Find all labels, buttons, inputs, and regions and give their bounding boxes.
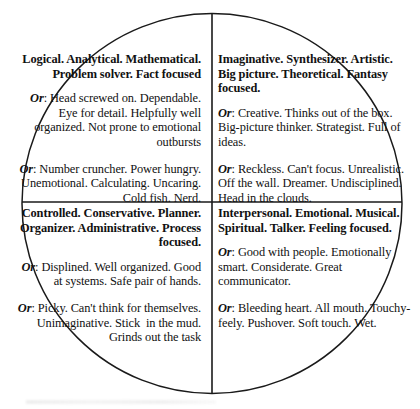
- quadrant-bottom-left-or-block-1: Or: Displined. Well organized. Good at s…: [14, 260, 201, 289]
- quadrant-bottom-left-or-block-2: Or: Picky. Can't think for themselves. U…: [14, 301, 201, 345]
- or-text: Head screwed on. Dependable. Eye for det…: [34, 91, 204, 149]
- or-label: Or: [30, 91, 44, 105]
- quadrant-bottom-right-or-block-1: Or: Good with people. Emotionally smart.…: [218, 245, 412, 289]
- quadrant-bottom-right: Interpersonal. Emotional. Musical. Spiri…: [216, 206, 412, 330]
- or-label: Or: [218, 245, 232, 259]
- or-label: Or: [218, 106, 232, 120]
- quadrant-bottom-right-heading: Interpersonal. Emotional. Musical. Spiri…: [218, 206, 412, 235]
- or-text: Good with people. Emotionally smart. Con…: [218, 245, 394, 288]
- quadrant-top-left-or-block-1: Or: Head screwed on. Dependable. Eye for…: [14, 91, 201, 149]
- quadrant-diagram: Logical. Analytical. Mathematical. Probl…: [0, 0, 420, 409]
- scan-artifact: [26, 400, 216, 404]
- or-text: Picky. Can't think for themselves. Unima…: [37, 301, 204, 344]
- quadrant-top-right-or-block-2: Or: Reckless. Can't focus. Unrealistic. …: [218, 162, 412, 206]
- or-label: Or: [18, 301, 32, 315]
- quadrant-bottom-right-or-block-2: Or: Bleeding heart. All mouth. Touchy-fe…: [218, 301, 412, 330]
- or-text: Reckless. Can't focus. Unrealistic. Off …: [218, 162, 407, 205]
- or-text: Bleeding heart. All mouth. Touchy-feely.…: [218, 301, 410, 330]
- quadrant-top-left: Logical. Analytical. Mathematical. Probl…: [14, 52, 208, 205]
- or-text: Displined. Well organized. Good at syste…: [41, 260, 204, 289]
- quadrant-top-right-or-block-1: Or: Creative. Thinks out of the box. Big…: [218, 106, 412, 150]
- or-label: Or: [21, 260, 35, 274]
- quadrant-top-left-or-block-2: Or: Number cruncher. Power hungry. Unemo…: [14, 162, 201, 206]
- quadrant-top-right-heading: Imaginative. Synthesizer. Artistic. Big …: [218, 52, 412, 96]
- or-label: Or: [19, 162, 33, 176]
- or-text: Creative. Thinks out of the box. Big-pic…: [218, 106, 404, 149]
- quadrant-top-right: Imaginative. Synthesizer. Artistic. Big …: [216, 52, 412, 205]
- or-label: Or: [218, 162, 232, 176]
- or-text: Number cruncher. Power hungry. Unemotion…: [21, 162, 204, 205]
- or-label: Or: [218, 301, 232, 315]
- quadrant-bottom-left: Controlled. Conservative. Planner. Organ…: [14, 206, 208, 345]
- quadrant-bottom-left-heading: Controlled. Conservative. Planner. Organ…: [14, 206, 201, 250]
- quadrant-top-left-heading: Logical. Analytical. Mathematical. Probl…: [14, 52, 201, 81]
